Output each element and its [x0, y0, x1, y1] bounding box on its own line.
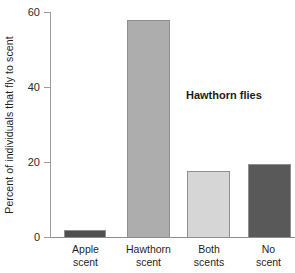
- y-tick-label-40: 40: [6, 82, 40, 93]
- y-axis-title: Percent of individuals that fly to scent: [0, 0, 18, 250]
- x-tick-label-apple-scent: Apple scent: [58, 243, 113, 269]
- y-tick-0: [44, 237, 51, 238]
- x-tick-label-line-2: scents: [181, 256, 237, 269]
- y-tick-label-0-wrap: 0: [0, 232, 40, 243]
- bar-no-scent: [248, 164, 291, 237]
- x-tick-label-line-2: scent: [58, 256, 113, 269]
- x-tick-label-line-1: No: [242, 243, 295, 256]
- chart-annotation-hawthorn-flies: Hawthorn flies: [186, 89, 262, 101]
- y-tick-label-20: 20: [6, 157, 40, 168]
- bar-hawthorn-scent: [127, 20, 170, 238]
- bar-chart: Percent of individuals that fly to scent…: [0, 0, 295, 273]
- y-tick-40: [44, 87, 51, 88]
- y-tick-label-20-wrap: 20: [0, 157, 40, 168]
- y-axis-title-text: Percent of individuals that fly to scent: [3, 36, 15, 213]
- bar-apple-scent: [64, 230, 106, 238]
- x-tick-label-line-2: scent: [119, 256, 178, 269]
- x-tick-label-line-1: Apple: [58, 243, 113, 256]
- x-tick-label-hawthorn-scent: Hawthorn scent: [119, 243, 178, 269]
- y-tick-label-0: 0: [6, 232, 40, 243]
- y-tick-20: [44, 162, 51, 163]
- x-tick-label-no-scent: No scent: [242, 243, 295, 269]
- y-tick-label-60-wrap: 60: [0, 7, 40, 18]
- y-tick-label-60: 60: [6, 7, 40, 18]
- x-tick-label-line-1: Hawthorn: [119, 243, 178, 256]
- x-tick-label-both-scents: Both scents: [181, 243, 237, 269]
- bar-both-scents: [187, 171, 230, 237]
- y-tick-60: [44, 12, 51, 13]
- y-tick-label-40-wrap: 40: [0, 82, 40, 93]
- x-tick-label-line-1: Both: [181, 243, 237, 256]
- x-axis-line: [44, 237, 295, 238]
- y-axis-line: [50, 12, 51, 238]
- x-tick-label-line-2: scent: [242, 256, 295, 269]
